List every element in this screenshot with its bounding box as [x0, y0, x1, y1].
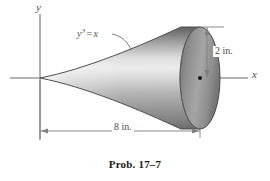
dimension-height-label: 2 in. [213, 46, 235, 57]
curve-equation-label: y3=x [77, 27, 98, 39]
figure-caption: Prob. 17–7 [0, 158, 270, 170]
y-axis-label: y [36, 2, 41, 13]
solid-of-revolution [40, 27, 220, 129]
figure-graphics [0, 0, 270, 181]
x-axis-label: x [252, 69, 257, 80]
equation-exponent: 3 [82, 27, 86, 35]
problem-figure: y x y3=x 2 in. 8 in. Prob. 17–7 [0, 0, 270, 181]
cap-center-dot [198, 76, 202, 80]
length-arrow-left [41, 128, 48, 133]
equation-leader-line [112, 34, 131, 50]
dimension-length-label: 8 in. [112, 122, 134, 133]
equation-result: x [94, 28, 99, 39]
equation-equals-sign: = [86, 28, 94, 39]
